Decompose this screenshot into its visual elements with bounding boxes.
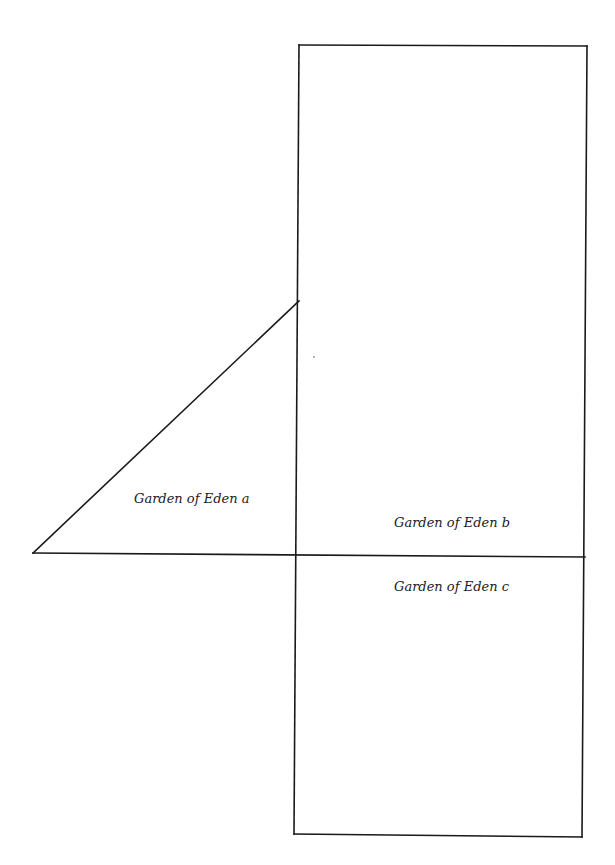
- divider-line: [33, 553, 585, 557]
- left-edge: [294, 45, 299, 834]
- garden-of-eden-diagram: Garden of Eden a Garden of Eden b Garden…: [0, 0, 615, 865]
- stray-dot: [313, 356, 315, 358]
- region-label-c: Garden of Eden c: [394, 579, 510, 594]
- triangle-hypotenuse: [33, 301, 299, 553]
- region-label-a: Garden of Eden a: [134, 491, 249, 506]
- right-edge: [582, 46, 587, 837]
- bottom-edge: [294, 834, 582, 837]
- top-edge: [299, 45, 587, 46]
- region-label-b: Garden of Eden b: [394, 515, 510, 530]
